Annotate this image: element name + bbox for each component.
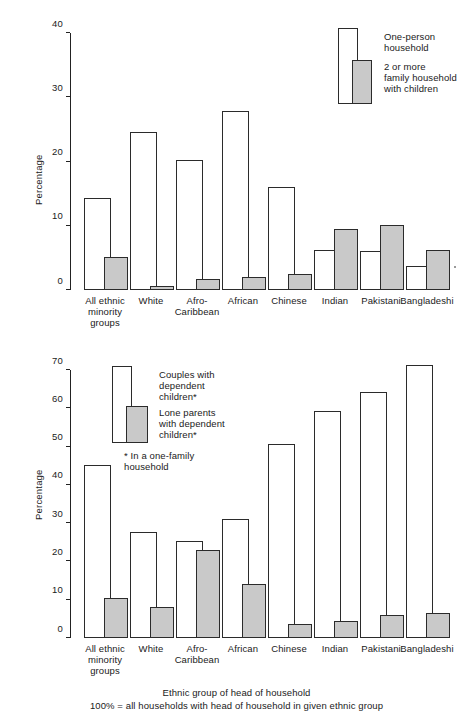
category-label-line: Chinese — [271, 295, 307, 306]
bottom-chart-tick-label-10: 10 — [52, 585, 63, 595]
top-chart-tick-30 — [66, 96, 70, 97]
bar-group: White — [130, 33, 176, 290]
legend-footnote: * In a one-family household — [124, 450, 194, 472]
category-label-line: Chinese — [271, 643, 307, 654]
bar-one-person — [222, 111, 249, 290]
category-label: Bangladeshi — [400, 643, 453, 654]
category-label-line: Afro- — [175, 643, 220, 654]
legend-swatches — [112, 366, 152, 443]
legend-swatches — [338, 28, 378, 104]
bar-two-or-more — [242, 277, 266, 291]
category-label-line: groups — [85, 317, 125, 328]
category-label-line: All ethnic — [85, 295, 125, 306]
bar-lone-parents — [196, 550, 220, 638]
bar-one-person — [176, 160, 203, 290]
category-label: All ethnic minority groups — [85, 643, 125, 676]
top-chart-tick-label-10: 10 — [52, 212, 63, 222]
bottom-chart-y-axis — [70, 370, 71, 638]
bottom-chart-tick-label-0: 0 — [58, 624, 63, 634]
category-label: White — [139, 295, 164, 306]
bottom-chart-tick-label-20: 20 — [52, 547, 63, 557]
category-label: Indian — [322, 643, 348, 654]
category-label: Afro- Caribbean — [175, 295, 220, 317]
family-type-chart: Percentage 70 60 50 40 30 20 10 0 — [0, 330, 473, 712]
category-label-line: minority — [85, 654, 125, 665]
category-label: African — [228, 295, 258, 306]
category-label-line: Pakistani — [361, 643, 400, 654]
top-chart-y-axis-title: Percentage — [33, 154, 44, 205]
bar-lone-parents — [288, 624, 312, 638]
bottom-chart-tick-label-70: 70 — [52, 356, 63, 366]
x-axis-title: Ethnic group of head of household — [0, 687, 473, 699]
category-label: Pakistani — [361, 643, 400, 654]
bar-two-or-more — [288, 274, 312, 290]
category-label-line: minority — [85, 306, 125, 317]
bar-group: Afro- Caribbean — [176, 33, 222, 290]
bar-group: Chinese — [268, 33, 314, 290]
bar-couples — [268, 444, 295, 639]
bar-lone-parents — [104, 598, 128, 638]
category-label-line: All ethnic — [85, 643, 125, 654]
category-label-line: groups — [85, 665, 125, 676]
legend-label-one-person: One-person household — [384, 31, 435, 53]
category-label: Chinese — [271, 643, 307, 654]
basis-note: 100% = all households with head of house… — [0, 700, 473, 712]
category-label-line: Afro- — [175, 295, 220, 306]
bar-lone-parents — [334, 621, 358, 638]
bottom-chart-tick-label-50: 50 — [52, 432, 63, 442]
bar-two-or-more — [426, 250, 450, 290]
category-label-line: Caribbean — [175, 654, 220, 665]
legend-label-lone-parents: Lone parents with dependent children* — [159, 407, 225, 440]
bottom-chart-tick-30 — [66, 522, 70, 523]
bar-lone-parents — [426, 613, 450, 638]
category-label: Bangladeshi — [400, 295, 453, 306]
category-label-line: White — [139, 643, 164, 654]
bottom-chart-tick-60 — [66, 407, 70, 408]
category-label-line: Indian — [322, 295, 348, 306]
category-label-line: African — [228, 295, 258, 306]
category-label-line: Bangladeshi — [400, 643, 453, 654]
bar-lone-parents — [380, 615, 404, 638]
bar-couples — [406, 365, 433, 638]
bottom-chart-tick-0 — [66, 637, 70, 638]
bar-couples — [360, 392, 387, 638]
category-label: All ethnic minority groups — [85, 295, 125, 328]
top-chart-tick-20 — [66, 161, 70, 162]
category-label-line: Bangladeshi — [400, 295, 453, 306]
category-label-line: White — [139, 295, 164, 306]
scan-speck — [454, 266, 456, 268]
top-chart-tick-label-40: 40 — [52, 19, 63, 29]
figure: Percentage 40 30 20 10 0 All ethnic mino… — [0, 0, 473, 712]
category-label-line: Pakistani — [361, 295, 400, 306]
category-label: Afro- Caribbean — [175, 643, 220, 665]
bottom-chart-tick-20 — [66, 560, 70, 561]
category-label: Pakistani — [361, 295, 400, 306]
bottom-chart-y-axis-title: Percentage — [33, 469, 44, 520]
category-label-line: African — [228, 643, 258, 654]
bar-two-or-more — [150, 286, 174, 290]
top-chart-y-axis — [70, 33, 71, 290]
bottom-chart-tick-label-30: 30 — [52, 509, 63, 519]
bar-group: Pakistani — [360, 370, 406, 638]
bar-two-or-more — [104, 257, 128, 290]
top-chart-tick-label-30: 30 — [52, 83, 63, 93]
household-type-chart: Percentage 40 30 20 10 0 All ethnic mino… — [0, 0, 473, 330]
bottom-chart-tick-70 — [66, 369, 70, 370]
top-chart-tick-40 — [66, 32, 70, 33]
bottom-chart-tick-50 — [66, 446, 70, 447]
top-chart-tick-0 — [66, 289, 70, 290]
bar-one-person — [130, 132, 157, 290]
top-chart-legend: One-person household 2 or more family ho… — [338, 28, 473, 104]
top-chart-tick-10 — [66, 225, 70, 226]
bottom-chart-tick-10 — [66, 599, 70, 600]
bar-lone-parents — [242, 584, 266, 638]
bar-two-or-more — [334, 229, 358, 290]
legend-label-two-or-more: 2 or more family household with children — [384, 61, 457, 94]
bar-couples — [314, 411, 341, 638]
category-label: Chinese — [271, 295, 307, 306]
category-label: African — [228, 643, 258, 654]
bar-two-or-more — [196, 279, 220, 290]
category-label: White — [139, 643, 164, 654]
bottom-chart-tick-40 — [66, 484, 70, 485]
top-chart-tick-label-0: 0 — [58, 276, 63, 286]
